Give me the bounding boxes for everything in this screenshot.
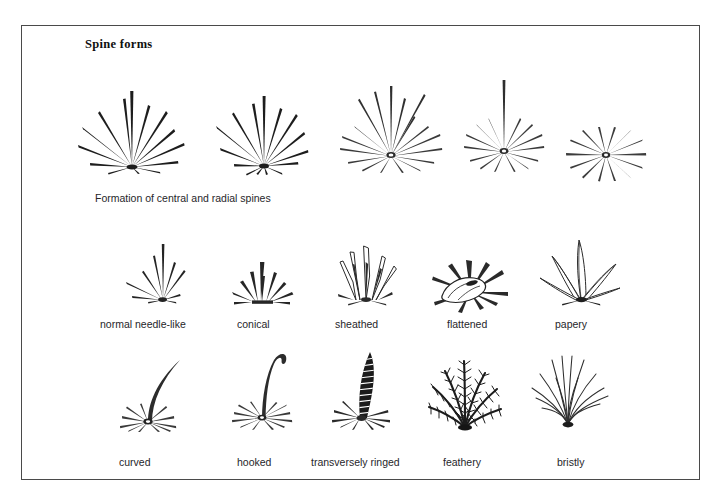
label-curved: curved bbox=[119, 456, 151, 468]
figure-conical bbox=[228, 258, 298, 306]
figure-transversely-ringed bbox=[330, 348, 406, 432]
figure-radials-only bbox=[564, 123, 648, 185]
figure-fewer-centrals-spray bbox=[208, 92, 320, 176]
figure-sheathed bbox=[330, 242, 404, 306]
figure-hooked bbox=[228, 352, 308, 432]
spine-forms-figure-page: Spine forms bbox=[0, 0, 723, 502]
figure-bristly bbox=[528, 352, 620, 432]
label-conical: conical bbox=[237, 318, 270, 330]
label-flattened: flattened bbox=[447, 318, 487, 330]
label-normal-needle-like: normal needle-like bbox=[100, 318, 186, 330]
page-title: Spine forms bbox=[85, 37, 153, 52]
caption-central-and-radial-formation: Formation of central and radial spines bbox=[95, 192, 271, 204]
label-feathery: feathery bbox=[443, 456, 481, 468]
label-transversely-ringed: transversely ringed bbox=[311, 456, 400, 468]
figure-normal-needle-like bbox=[118, 242, 204, 304]
figure-curved bbox=[118, 356, 202, 432]
figure-many-centrals-wide-spray bbox=[68, 83, 196, 175]
figure-papery bbox=[536, 238, 626, 306]
figure-flattened bbox=[428, 258, 512, 314]
figure-single-central-many-radials bbox=[462, 78, 546, 174]
label-papery: papery bbox=[555, 318, 587, 330]
label-hooked: hooked bbox=[237, 456, 271, 468]
figure-few-centrals-many-radials bbox=[336, 82, 446, 174]
label-sheathed: sheathed bbox=[335, 318, 378, 330]
figure-feathery bbox=[423, 355, 507, 433]
label-bristly: bristly bbox=[557, 456, 584, 468]
